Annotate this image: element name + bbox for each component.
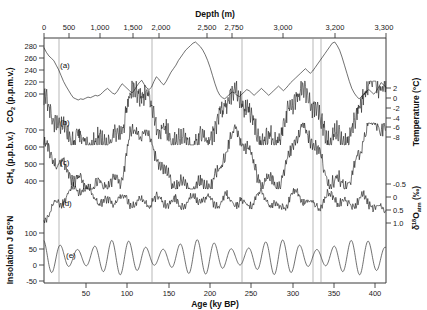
top-tick-label: 1,500 <box>124 23 143 32</box>
age-tick-label: 150 <box>163 289 176 298</box>
insolation-tick-label: 0 <box>33 261 37 270</box>
top-tick-label: 500 <box>63 23 76 32</box>
panel-labels: (a) (b) (c) (d) (e) <box>60 61 76 260</box>
bottom-axis-title: Age (ky BP) <box>191 299 239 309</box>
age-tick-label: 350 <box>328 289 341 298</box>
top-tick-label: 3,200 <box>326 23 345 32</box>
co2-tick-label: 280 <box>24 42 37 51</box>
temperature-tick-label: -2 <box>393 104 400 113</box>
temperature-tick-label: 0 <box>393 94 397 103</box>
top-axis-ticks <box>44 33 386 38</box>
top-tick-label: 3,300 <box>375 23 394 32</box>
co2-tick-label: 220 <box>24 78 37 87</box>
d18o-tick-label: 1.0 <box>393 219 403 228</box>
top-axis-tick-labels: 0 500 1,000 1,500 2,000 2,500 2,750 3,00… <box>42 23 393 32</box>
ch4-tick-label: 400 <box>24 177 37 186</box>
insolation-axis-title: Insolation J 65°N <box>5 216 15 285</box>
top-axis-title: Depth (m) <box>195 9 235 19</box>
co2-tick-label: 260 <box>24 54 37 63</box>
temperature-curve <box>44 81 386 145</box>
left-axis-co2: CO2 (p.p.m.v.) 280 260 240 220 200 <box>5 42 44 123</box>
bottom-axis-tick-labels: 50 100 150 200 250 300 350 400 <box>82 289 381 298</box>
top-tick-label: 0 <box>42 23 46 32</box>
termination-guide-lines <box>59 38 321 283</box>
co2-tick-label: 200 <box>24 90 37 99</box>
d18o-tick-label: 0 <box>393 193 397 202</box>
insolation-tick-label: -50 <box>26 277 37 286</box>
temperature-tick-label: 2 <box>393 84 397 93</box>
d18o-curve <box>44 182 385 223</box>
right-axis-temperature: Temperature (°C) 2 0 -2 -4 -6 -8 <box>386 78 421 147</box>
right-axis-d18o: δ18Oatm (‰) -0.5 0 0.5 1.0 <box>386 180 422 231</box>
temperature-tick-label: -4 <box>393 114 400 123</box>
panel-label-e: (e) <box>66 251 76 260</box>
temperature-tick-label: -8 <box>393 133 400 142</box>
age-tick-label: 250 <box>245 289 258 298</box>
top-tick-label: 2,500 <box>198 23 217 32</box>
co2-tick-label: 240 <box>24 66 37 75</box>
age-tick-label: 200 <box>204 289 217 298</box>
top-tick-label: 1,000 <box>91 23 110 32</box>
co2-curve <box>44 42 386 100</box>
ch4-axis-title: CH4 (p.p.b.v.) <box>5 132 16 185</box>
age-tick-label: 50 <box>82 289 90 298</box>
ch4-tick-label: 700 <box>24 126 37 135</box>
ch4-tick-label: 600 <box>24 143 37 152</box>
age-tick-label: 400 <box>369 289 382 298</box>
insolation-tick-label: 50 <box>29 245 37 254</box>
panel-label-c: (c) <box>60 158 70 167</box>
figure-svg: Depth (m) 0 500 1,000 1,500 2,000 <box>0 0 427 310</box>
left-axis-insolation: Insolation J 65°N 100 50 0 -50 <box>5 216 44 286</box>
left-axis-ch4: CH4 (p.p.b.v.) 700 600 500 400 <box>5 126 44 186</box>
d18o-tick-label: 0.5 <box>393 206 403 215</box>
panel-label-d: (d) <box>62 199 72 208</box>
top-axis-depth: Depth (m) 0 500 1,000 1,500 2,000 <box>42 9 393 38</box>
d18o-axis-title: δ18Oatm (‰) <box>411 186 422 230</box>
panel-label-a: (a) <box>60 61 70 70</box>
insolation-curve <box>44 240 386 275</box>
temperature-axis-title: Temperature (°C) <box>411 78 421 147</box>
paleoclimate-ice-core-figure: Depth (m) 0 500 1,000 1,500 2,000 <box>0 0 427 310</box>
co2-axis-title: CO2 (p.p.m.v.) <box>5 67 16 122</box>
bottom-axis-age: 50 100 150 200 250 300 350 400 Age (ky B… <box>82 283 381 309</box>
insolation-tick-label: 100 <box>24 229 37 238</box>
temperature-tick-label: -6 <box>393 123 400 132</box>
d18o-tick-label: -0.5 <box>393 180 406 189</box>
data-curves <box>44 42 386 275</box>
top-tick-label: 2,750 <box>225 23 244 32</box>
age-tick-label: 300 <box>287 289 300 298</box>
age-tick-label: 100 <box>121 289 134 298</box>
bottom-axis-ticks <box>86 283 375 288</box>
top-tick-label: 3,000 <box>274 23 293 32</box>
ch4-tick-label: 500 <box>24 160 37 169</box>
panel-label-b: (b) <box>60 118 70 127</box>
top-tick-label: 2,000 <box>152 23 171 32</box>
